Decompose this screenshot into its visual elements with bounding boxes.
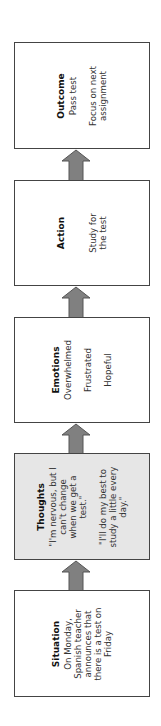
action-title: Action	[56, 183, 66, 283]
outcome-title: Outcome	[56, 46, 66, 146]
outcome-box: Outcome Pass test Focus on next assignme…	[14, 42, 150, 149]
emotions-line: Frustrated	[83, 320, 93, 420]
thoughts-line: "I'm nervous, but I	[48, 455, 58, 559]
situation-title: Situation	[51, 594, 61, 694]
outcome-line: Focus on next	[88, 46, 98, 146]
arrow-up-icon	[61, 560, 91, 592]
outcome-line: Pass test	[68, 46, 78, 146]
thoughts-line: when we get a	[68, 455, 78, 559]
thoughts-box: Thoughts "I'm nervous, but I can't chang…	[14, 453, 150, 560]
arrow-up-icon	[61, 149, 91, 181]
situation-box: Situation On Monday, Spanish teacher ann…	[14, 590, 150, 697]
thoughts-line: can't change	[58, 455, 68, 559]
situation-line: Friday	[103, 594, 113, 694]
thoughts-line: test."	[78, 455, 88, 559]
situation-line: announces that	[83, 594, 93, 694]
thoughts-line: study a little every	[108, 455, 118, 559]
thoughts-title: Thoughts	[36, 455, 46, 559]
situation-line: On Monday,	[63, 594, 73, 694]
emotions-box: Emotions Overwhelmed Frustrated Hopeful	[14, 317, 150, 423]
action-box: Action Study for the test	[14, 180, 150, 286]
emotions-line: Overwhelmed	[63, 320, 73, 420]
thoughts-line: "I'll do my best to	[98, 455, 108, 559]
situation-line: Spanish teacher	[73, 594, 83, 694]
emotions-line: Hopeful	[103, 320, 113, 420]
action-line: Study for	[88, 183, 98, 283]
situation-line: there is a test on	[93, 594, 103, 694]
outcome-line: assignment	[98, 46, 108, 146]
action-line: the test	[98, 183, 108, 283]
arrow-up-icon	[61, 423, 91, 455]
emotions-title: Emotions	[51, 320, 61, 420]
thoughts-line: day."	[118, 455, 128, 559]
arrow-up-icon	[61, 286, 91, 318]
